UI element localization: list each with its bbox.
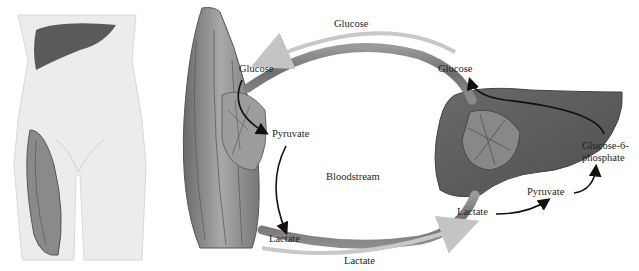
label-lactate-bottom: Lactate: [344, 255, 375, 266]
label-glucose-liver: Glucose: [438, 63, 472, 74]
diagram-canvas: [0, 0, 639, 271]
label-lactate-muscle: Lactate: [269, 233, 300, 244]
label-g6p-line1: Glucose-6-: [582, 140, 629, 151]
label-lactate-liver: Lactate: [457, 206, 488, 217]
arrow-lactate-to-pyruvate: [496, 200, 548, 214]
label-glucose-top: Glucose: [334, 18, 368, 29]
label-g6p-line2: phosphate: [582, 152, 625, 163]
label-pyruvate-muscle: Pyruvate: [272, 128, 309, 139]
label-glucose-muscle: Glucose: [239, 63, 273, 74]
body-figure: [14, 15, 146, 260]
arrow-pyruvate-to-g6p: [574, 167, 596, 193]
label-bloodstream: Bloodstream: [326, 171, 380, 182]
muscle-illustration: [183, 8, 266, 249]
label-pyruvate-liver: Pyruvate: [527, 186, 564, 197]
arrow-pyruvate-to-lactate: [276, 146, 286, 232]
